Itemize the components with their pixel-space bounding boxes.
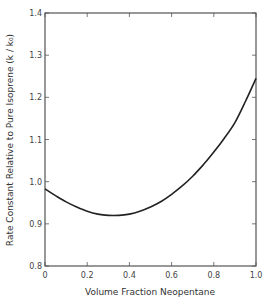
y-tick-label: 1.4 <box>29 9 42 18</box>
y-tick-label: 1.3 <box>29 51 42 60</box>
x-tick-label: 0.4 <box>123 271 136 280</box>
y-tick-label: 0.9 <box>29 220 42 229</box>
x-axis-label: Volume Fraction Neopentane <box>85 287 216 297</box>
x-tick-label: 1.0 <box>250 271 263 280</box>
y-tick-label: 0.8 <box>29 262 42 271</box>
y-tick-label: 1.0 <box>29 178 42 187</box>
y-axis-label: Rate Constant Relative to Pure Isoprene … <box>5 34 15 246</box>
y-tick-label: 1.1 <box>29 136 42 145</box>
tick-labels: 00.20.40.60.81.00.80.91.01.11.21.31.4 <box>29 9 262 280</box>
data-curve <box>45 78 256 215</box>
x-tick-label: 0 <box>42 271 47 280</box>
x-tick-label: 0.2 <box>81 271 94 280</box>
x-tick-label: 0.6 <box>165 271 178 280</box>
chart: 00.20.40.60.81.00.80.91.01.11.21.31.4 Vo… <box>0 0 274 307</box>
y-tick-label: 1.2 <box>29 93 42 102</box>
x-tick-label: 0.8 <box>207 271 220 280</box>
